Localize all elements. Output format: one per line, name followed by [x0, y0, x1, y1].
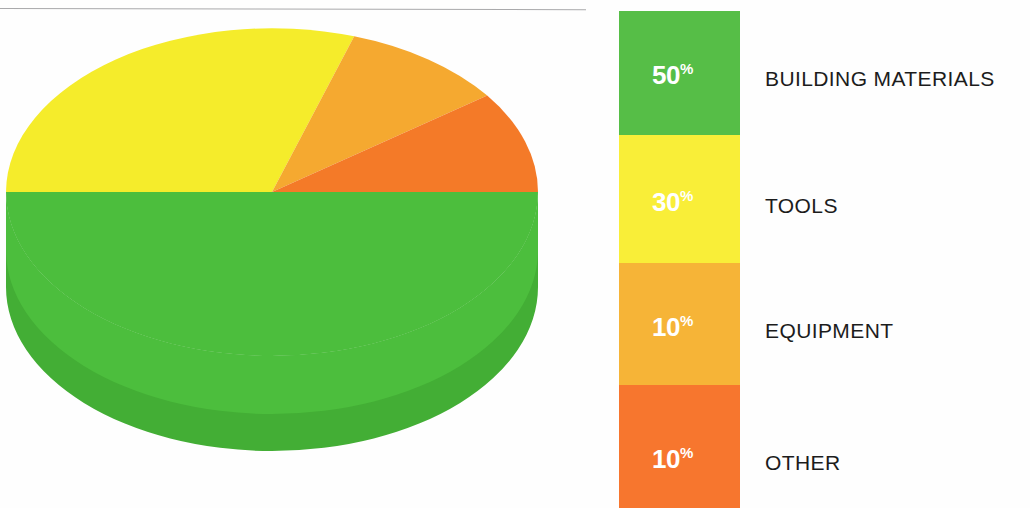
pie-chart-svg — [0, 0, 600, 508]
percent-sign-icon: % — [680, 444, 693, 461]
legend-percent-tools: 30% — [652, 188, 693, 215]
legend-percent-value: 30 — [652, 187, 680, 217]
legend-percent-building-materials: 50% — [652, 61, 693, 88]
legend-label-other: OTHER — [765, 452, 841, 473]
pie-chart-infographic: 50% BUILDING MATERIALS 30% TOOLS 10% EQU… — [0, 0, 1030, 508]
legend: 50% BUILDING MATERIALS 30% TOOLS 10% EQU… — [619, 11, 1030, 508]
legend-item-equipment[interactable]: 10% EQUIPMENT — [619, 263, 1030, 385]
legend-percent-value: 10 — [652, 444, 680, 474]
legend-percent-value: 10 — [652, 312, 680, 342]
legend-label-building-materials: BUILDING MATERIALS — [765, 68, 995, 89]
percent-sign-icon: % — [680, 60, 693, 77]
legend-label-tools: TOOLS — [765, 195, 838, 216]
percent-sign-icon: % — [680, 187, 693, 204]
legend-percent-value: 50 — [652, 60, 680, 90]
pie-chart — [0, 0, 600, 508]
legend-item-tools[interactable]: 30% TOOLS — [619, 135, 1030, 263]
legend-percent-other: 10% — [652, 445, 693, 472]
legend-item-building-materials[interactable]: 50% BUILDING MATERIALS — [619, 11, 1030, 135]
legend-percent-equipment: 10% — [652, 313, 693, 340]
legend-label-equipment: EQUIPMENT — [765, 320, 893, 341]
percent-sign-icon: % — [680, 312, 693, 329]
legend-item-other[interactable]: 10% OTHER — [619, 385, 1030, 508]
